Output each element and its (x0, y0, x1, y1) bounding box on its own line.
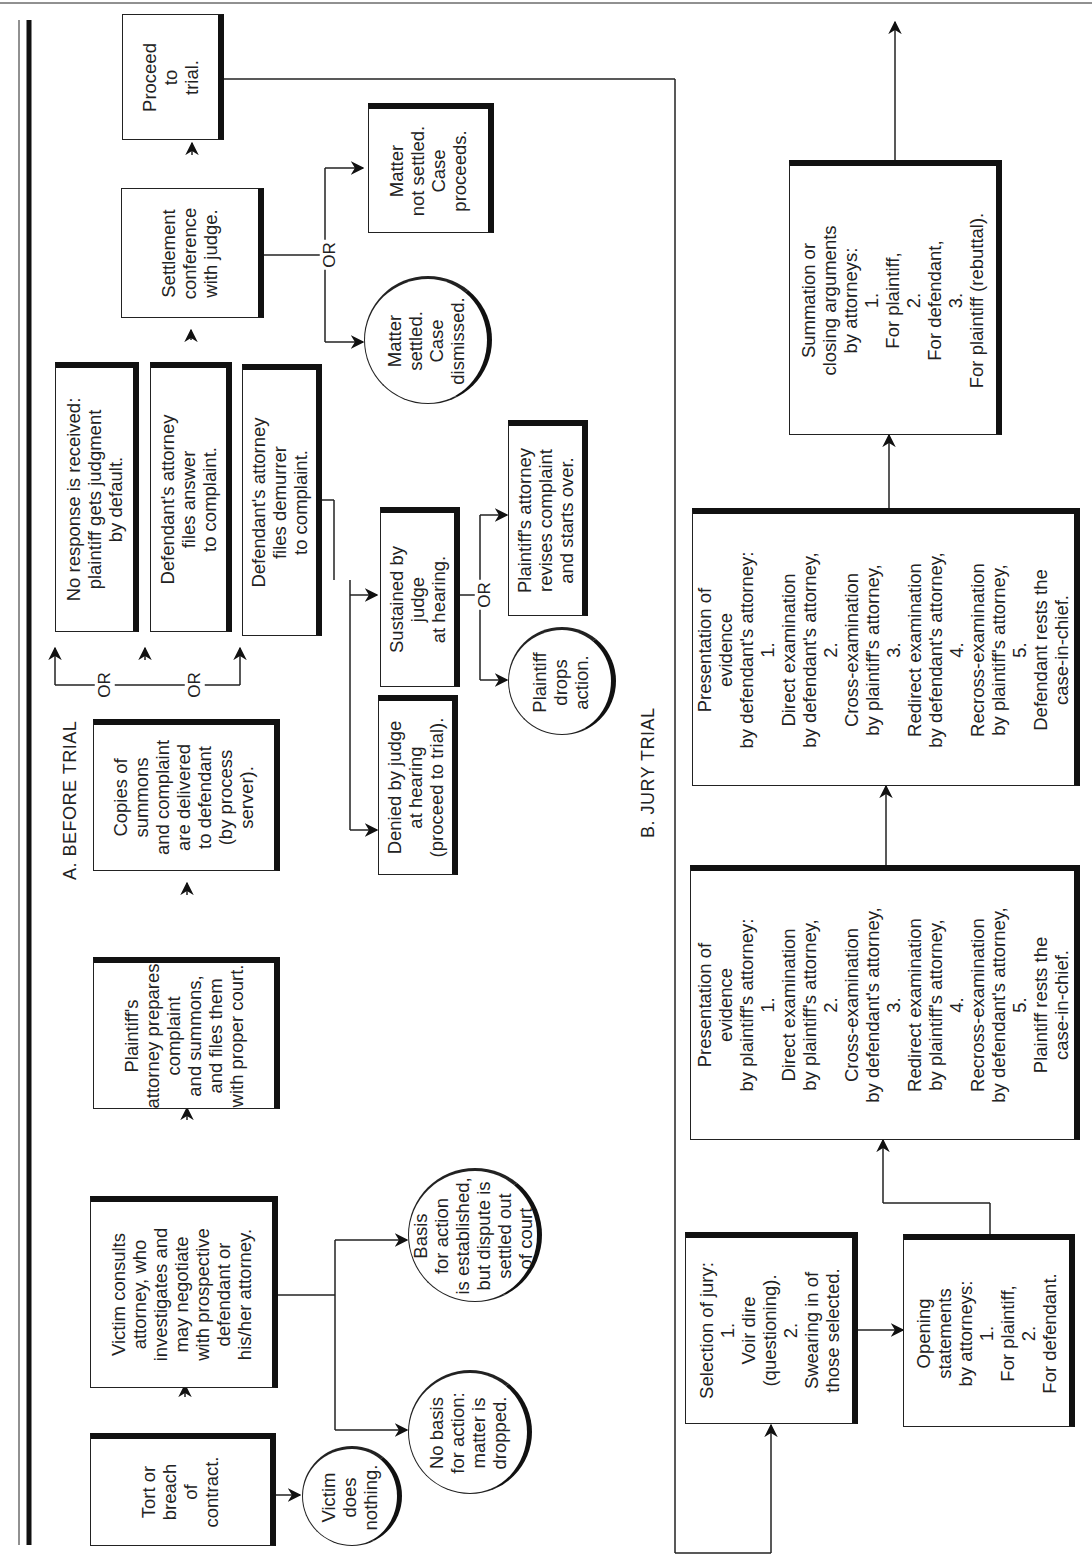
section-before-trial: A. BEFORE TRIAL (60, 721, 81, 880)
node-files-answer: Defendant's attorney files answer to com… (150, 362, 232, 632)
node-no-basis: No basis for action: matter is dropped. (408, 1370, 532, 1494)
node-defendant-evidence: Presentation of evidence by defendant's … (692, 508, 1080, 786)
node-text: Summation or closing arguments by attorn… (798, 212, 987, 387)
node-text: Settlement conference with judge. (158, 207, 221, 299)
node-plaintiff-drops: Plaintiff drops action. (508, 627, 616, 735)
node-text: Matter not settled. Case proceeds. (386, 125, 470, 216)
or-label: OR (320, 240, 340, 270)
node-text: Victim consults attorney, who investigat… (108, 1228, 255, 1362)
node-sustained-by-judge: Sustained by judge at hearing. (380, 507, 460, 687)
node-matter-settled: Matter settled. Case dismissed. (364, 276, 492, 404)
node-text: Tort or breach of contract. (138, 1457, 222, 1528)
node-files-demurrer: Defendant's attorney files demurrer to c… (242, 364, 322, 636)
node-text: Defendant's attorney files answer to com… (157, 414, 220, 584)
node-text: Plaintiff drops action. (529, 652, 592, 712)
node-text: No basis for action: matter is dropped. (426, 1392, 510, 1473)
node-text: Defendant's attorney files demurrer to c… (248, 417, 311, 587)
node-text: Basis for action is established, but dis… (410, 1177, 536, 1294)
node-settlement-conference: Settlement conference with judge. (121, 188, 264, 318)
node-text: Copies of summons and complaint are deli… (111, 740, 258, 855)
or-label: OR (95, 670, 115, 700)
node-selection-of-jury: Selection of jury: 1. Voir dire (questio… (685, 1232, 858, 1424)
node-opening-statements: Opening statements by attorneys: 1. For … (903, 1234, 1075, 1427)
section-jury-trial: B. JURY TRIAL (638, 707, 659, 838)
node-summation: Summation or closing arguments by attorn… (789, 160, 1002, 435)
node-text: Plaintiff's attorney revises complaint a… (514, 448, 577, 593)
node-text: Presentation of evidence by defendant's … (694, 551, 1072, 748)
node-text: Denied by judge at hearing (proceed to t… (384, 718, 447, 858)
node-plaintiff-evidence: Presentation of evidence by plaintiff's … (690, 865, 1080, 1140)
node-victim-does-nothing: Victim does nothing. (302, 1446, 402, 1546)
node-text: Matter settled. Case dismissed. (384, 297, 468, 384)
node-text: Proceed to trial. (139, 43, 202, 112)
node-plaintiff-revises: Plaintiff's attorney revises complaint a… (508, 420, 588, 616)
node-tort: Tort or breach of contract. (90, 1433, 276, 1546)
node-text: Selection of jury: 1. Voir dire (questio… (695, 1262, 842, 1399)
node-victim-consults: Victim consults attorney, who investigat… (90, 1196, 278, 1388)
node-basis-established: Basis for action is established, but dis… (408, 1168, 542, 1302)
node-no-response: No response is received: plaintiff gets … (55, 362, 139, 632)
or-label: OR (475, 580, 495, 610)
node-proceed-to-trial: Proceed to trial. (122, 14, 224, 140)
node-denied-by-judge: Denied by judge at hearing (proceed to t… (378, 695, 458, 875)
node-text: No response is received: plaintiff gets … (63, 398, 126, 602)
or-label: OR (185, 670, 205, 700)
node-matter-not-settled: Matter not settled. Case proceeds. (368, 103, 494, 233)
node-text: Plaintiff's attorney prepares complaint … (121, 963, 247, 1108)
node-copies-delivered: Copies of summons and complaint are deli… (93, 719, 280, 871)
node-text: Sustained by judge at hearing. (386, 546, 449, 653)
node-text: Opening statements by attorneys: 1. For … (913, 1273, 1060, 1393)
node-text: Presentation of evidence by plaintiff's … (693, 907, 1071, 1103)
node-text: Victim does nothing. (319, 1464, 382, 1530)
node-plaintiff-prepares: Plaintiff's attorney prepares complaint … (93, 957, 280, 1109)
